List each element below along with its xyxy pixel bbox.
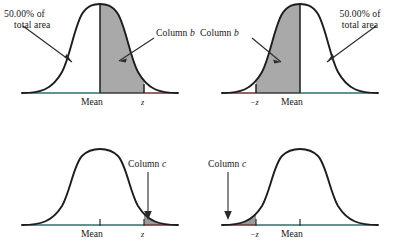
label-fifty-percent-top-left: 50.00% of total area: [4, 8, 50, 31]
column-c-word: Column: [128, 158, 160, 169]
label-fifty-percent-top-right: 50.00% of total area: [324, 8, 396, 31]
label-column-c-bottom-left: Column c: [128, 158, 166, 169]
arrowhead-column-c: [224, 211, 232, 220]
leader-fifty-percent: [23, 26, 72, 62]
axis-label-mean-bottom-right: Mean: [281, 228, 303, 239]
leader-fifty-percent: [327, 26, 376, 62]
column-c-word: Column: [208, 158, 240, 169]
fifty-percent-line2: total area: [4, 19, 50, 30]
label-column-b-top-left: Column b: [156, 27, 195, 38]
normal-distribution-figure: 50.00% of total area Column b Mean z Col…: [0, 0, 400, 250]
column-c-letter: c: [242, 158, 246, 169]
label-column-c-bottom-right: Column c: [208, 158, 246, 169]
axis-label-mean-top-right: Mean: [281, 96, 303, 107]
axis-label-mean-bottom-left: Mean: [81, 228, 103, 239]
column-b-word: Column: [156, 27, 188, 38]
column-c-letter: c: [162, 158, 166, 169]
column-b-letter: b: [234, 27, 239, 38]
column-b-word: Column: [200, 27, 232, 38]
fifty-percent-line2: total area: [342, 19, 378, 30]
label-column-b-top-right: Column b: [200, 27, 239, 38]
axis-label-mean-top-left: Mean: [81, 96, 103, 107]
axis-label-z-bottom-right: −z: [250, 230, 259, 240]
axis-label-z-top-right: −z: [250, 98, 259, 108]
fifty-percent-line1: 50.00% of: [340, 8, 381, 19]
column-b-letter: b: [190, 27, 195, 38]
axis-label-z-top-left: z: [141, 98, 144, 108]
axis-label-z-bottom-left: z: [141, 230, 144, 240]
fifty-percent-line1: 50.00% of: [4, 8, 45, 19]
